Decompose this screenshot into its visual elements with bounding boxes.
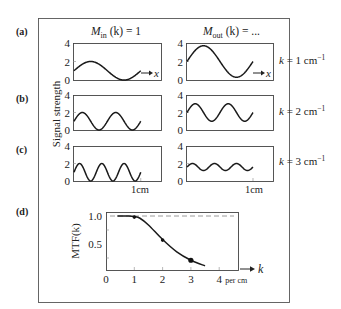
plot-frame: [187, 147, 274, 182]
y-tick-label: 0: [65, 124, 71, 136]
y-tick-label: 4: [65, 89, 71, 101]
signal-plots: 024x024024024x024024: [65, 37, 274, 187]
mtf-x-tick-label: 4: [216, 273, 222, 285]
signal-plot-input-row2: 024: [65, 89, 162, 136]
mtf-data-point: [188, 258, 193, 263]
signal-plot-input-row1: 024x: [65, 37, 162, 86]
y-tick-label: 4: [65, 140, 71, 152]
mtf-x-tick-label: 0: [103, 273, 109, 285]
panel-label-b: (b): [16, 93, 28, 105]
mtf-y-tick-label: 1.0: [88, 210, 102, 222]
outer-frame: [39, 19, 290, 303]
y-tick-label: 4: [178, 37, 184, 49]
y-tick-label: 0: [178, 124, 184, 136]
signal-curve: [187, 46, 253, 77]
y-tick-label: 2: [65, 107, 71, 119]
y-tick-label: 2: [178, 107, 184, 119]
y-tick-label: 4: [178, 140, 184, 152]
signal-plot-output-row2: 024: [178, 89, 274, 136]
signal-curve: [187, 104, 253, 122]
y-tick-label: 2: [65, 158, 71, 170]
y-axis-label: Signal strength: [50, 80, 62, 147]
signal-curve: [74, 113, 141, 131]
y-tick-label: 0: [65, 175, 71, 187]
k-axis-symbol: k: [258, 262, 264, 276]
input-column-title: Min (k) = 1: [90, 25, 141, 40]
mtf-x-tick-label: 1: [132, 273, 138, 285]
y-tick-label: 4: [178, 89, 184, 101]
scale-label-input: 1cm: [131, 184, 149, 195]
x-axis-symbol: x: [265, 67, 271, 79]
mtf-y-tick-label: 0.5: [88, 238, 102, 250]
y-tick-label: 0: [65, 74, 71, 86]
mtf-y-axis-label: MTF(k): [69, 223, 82, 259]
y-tick-label: 4: [65, 37, 71, 49]
panel-label-a: (a): [16, 26, 28, 38]
signal-plot-output-row3: 024: [178, 140, 274, 187]
mtf-x-tick-label: 2: [160, 273, 166, 285]
mtf-x-unit: per cm: [225, 276, 248, 285]
mtf-x-tick-label: 3: [188, 273, 194, 285]
y-tick-label: 0: [178, 175, 184, 187]
mtf-plot: 0.51.001234per cmMTF(k)k: [69, 210, 264, 285]
panel-label-c: (c): [16, 144, 27, 156]
y-tick-label: 2: [178, 158, 184, 170]
y-tick-label: 2: [65, 56, 71, 68]
mtf-data-point: [161, 238, 165, 242]
x-axis-symbol: x: [153, 67, 159, 79]
row-label-k2: k = 2 cm−1: [279, 104, 326, 117]
row-label-k3: k = 3 cm−1: [279, 154, 326, 167]
panel-label-d: (d): [16, 206, 28, 218]
signal-curve: [74, 62, 141, 81]
signal-curve: [74, 164, 141, 182]
y-tick-label: 2: [178, 56, 184, 68]
figure-canvas: (a) (b) (c) (d) Min (k) = 1 Mout (k) = .…: [0, 0, 341, 309]
mtf-frame: [107, 213, 239, 271]
plot-frame: [187, 96, 274, 131]
mtf-data-point: [133, 215, 137, 219]
signal-plot-output-row1: 024x: [178, 37, 274, 86]
scale-label-output: 1cm: [245, 184, 263, 195]
signal-plot-input-row3: 024: [65, 140, 162, 187]
signal-curve: [187, 164, 253, 171]
output-column-title: Mout (k) = ...: [202, 25, 260, 40]
y-tick-label: 0: [178, 74, 184, 86]
row-label-k1: k = 1 cm−1: [279, 53, 326, 66]
